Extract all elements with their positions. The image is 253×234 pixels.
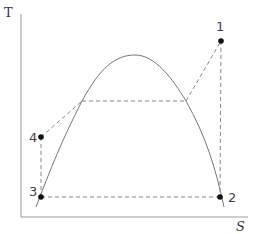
process-line-1-2 (220, 41, 221, 197)
process-line-dome-1 (186, 41, 221, 101)
state-point-3 (38, 194, 44, 200)
state-point-2 (217, 194, 223, 200)
state-point-4 (38, 134, 44, 140)
process-line-4-dome (41, 101, 82, 137)
x-axis-label: S (236, 219, 245, 234)
state-label-3: 3 (29, 184, 37, 199)
saturation-dome-curve (36, 55, 224, 207)
state-label-1: 1 (216, 19, 224, 34)
state-label-2: 2 (228, 190, 236, 205)
state-label-4: 4 (29, 130, 37, 145)
state-point-1 (218, 38, 224, 44)
ts-diagram: T S 1 2 3 4 (0, 0, 253, 234)
y-axis-label: T (4, 5, 13, 20)
